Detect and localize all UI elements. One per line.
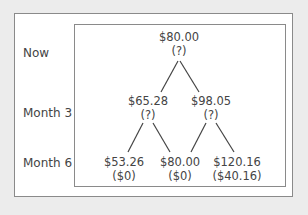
node-value: ($0) xyxy=(104,169,144,183)
node-month6-down-down: $53.26 ($0) xyxy=(104,155,144,183)
node-value: (?) xyxy=(159,44,199,58)
node-month6-middle: $80.00 ($0) xyxy=(160,155,200,183)
node-month6-up-up: $120.16 ($40.16) xyxy=(212,155,261,183)
node-price: $65.28 xyxy=(128,94,168,108)
node-value: ($0) xyxy=(160,169,200,183)
node-value: (?) xyxy=(191,108,231,122)
node-month3-down: $65.28 (?) xyxy=(128,94,168,122)
node-value: ($40.16) xyxy=(212,169,261,183)
node-price: $80.00 xyxy=(160,155,200,169)
node-value: (?) xyxy=(128,108,168,122)
node-price: $80.00 xyxy=(159,30,199,44)
node-month3-up: $98.05 (?) xyxy=(191,94,231,122)
node-price: $53.26 xyxy=(104,155,144,169)
node-now: $80.00 (?) xyxy=(159,30,199,58)
node-price: $98.05 xyxy=(191,94,231,108)
node-price: $120.16 xyxy=(212,155,261,169)
